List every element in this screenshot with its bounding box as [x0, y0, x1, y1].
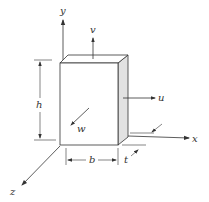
w-label: w — [77, 123, 86, 134]
y-axis-label: y — [59, 5, 66, 16]
width-dimension: b — [66, 148, 118, 165]
block-top-face — [60, 55, 128, 63]
block-diagram: y z x v u w h — [0, 0, 209, 202]
x-axis: x — [128, 133, 198, 144]
y-axis: y — [59, 5, 66, 63]
x-axis-label: x — [192, 133, 198, 144]
block-side-face — [118, 55, 128, 145]
block-front-face — [60, 63, 118, 145]
z-axis: z — [9, 146, 60, 197]
height-dimension: h — [34, 60, 56, 140]
b-label: b — [89, 154, 95, 165]
t-label: t — [124, 154, 129, 165]
v-label: v — [90, 24, 96, 35]
z-axis-label: z — [9, 186, 16, 197]
u-displacement: u — [123, 92, 164, 103]
block — [60, 55, 128, 145]
v-displacement: v — [90, 24, 96, 59]
u-label: u — [158, 92, 164, 103]
h-label: h — [36, 99, 42, 110]
